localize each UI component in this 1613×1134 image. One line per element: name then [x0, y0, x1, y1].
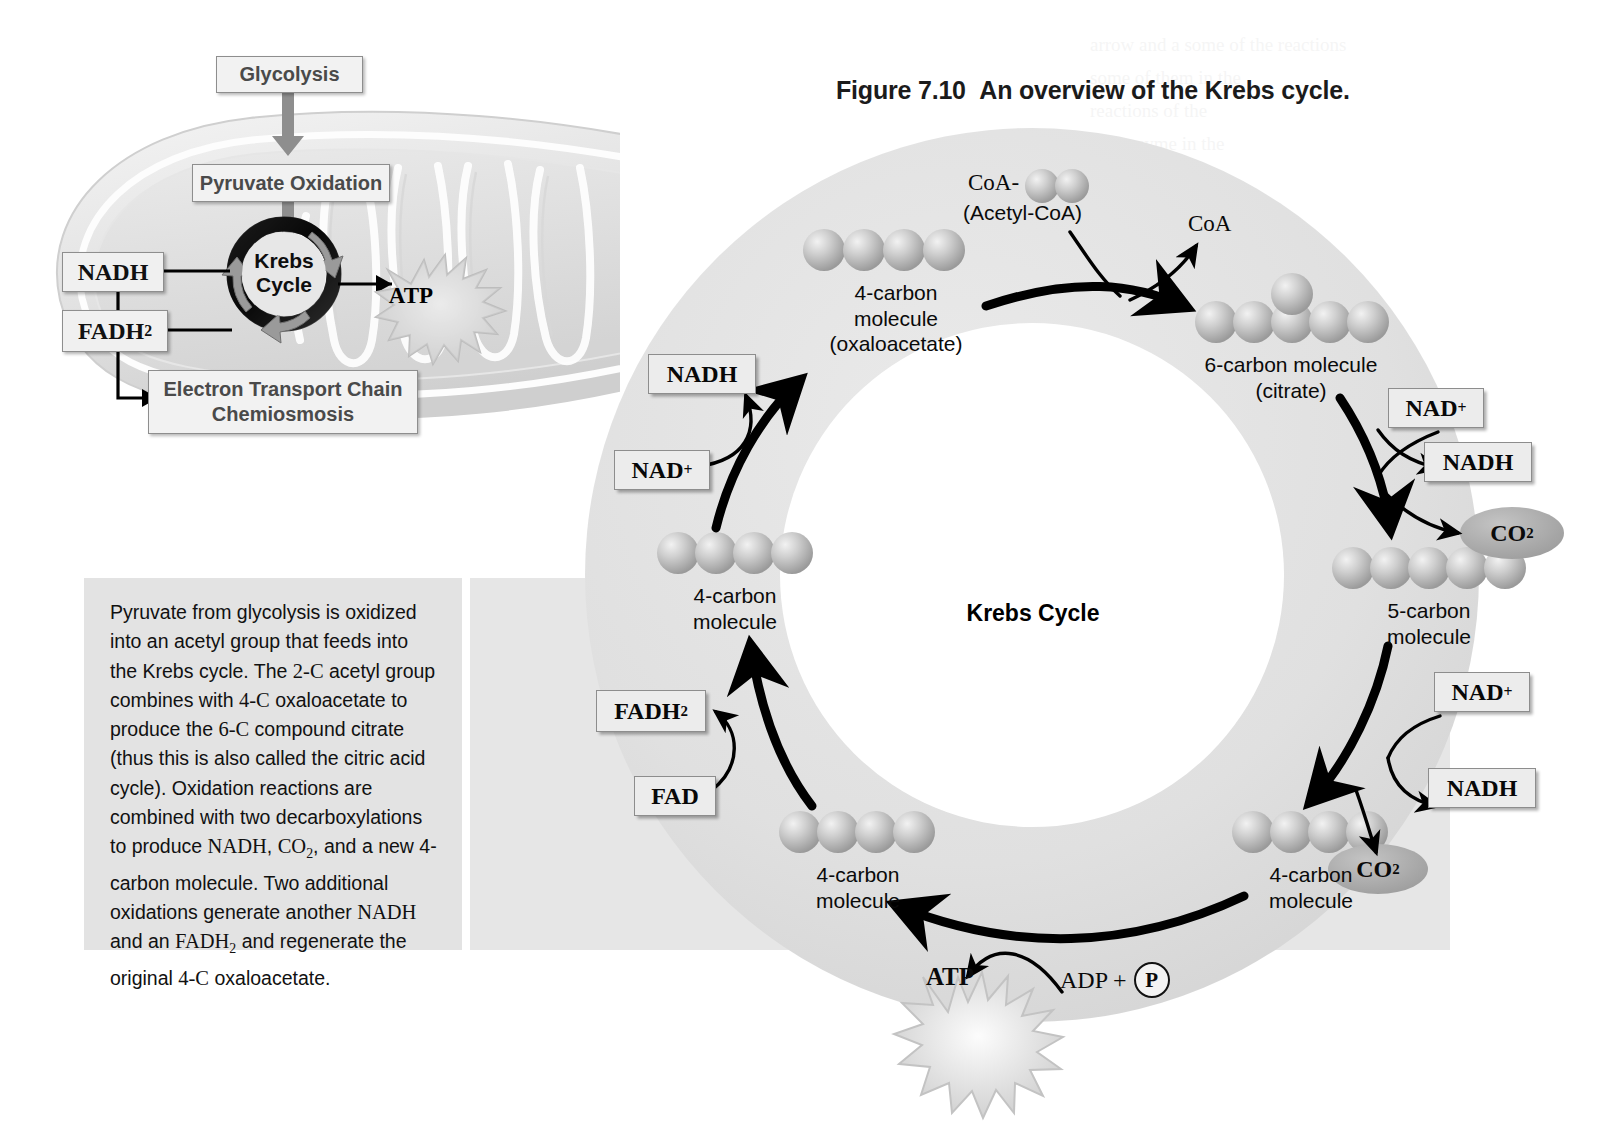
- nadh-box-bottom-right[interactable]: NADH: [1428, 768, 1536, 808]
- nad-plus-label-tl: NAD: [631, 457, 683, 484]
- citrate-label: 6-carbon molecule (citrate): [1188, 352, 1394, 403]
- coa-prefix-label: CoA-: [968, 170, 1019, 196]
- four-carbon-br-line-2: molecule: [1232, 888, 1390, 914]
- nadh-label-tr: NADH: [1443, 449, 1514, 476]
- five-carbon-label: 5-carbon molecule: [1350, 598, 1508, 649]
- co2-main-br: CO: [1356, 856, 1392, 883]
- nadh-label-tl: NADH: [667, 361, 738, 388]
- co2-subscript-br: 2: [1392, 861, 1399, 878]
- five-carbon-line-1: 5-carbon: [1350, 598, 1508, 624]
- co2-main-tr: CO: [1490, 520, 1526, 547]
- nad-plus-box-bottom-right[interactable]: NAD+: [1434, 672, 1530, 712]
- four-carbon-bottom-left-label: 4-carbon molecule: [779, 862, 937, 913]
- coa-output-label: CoA: [1188, 211, 1231, 237]
- oxaloacetate-line-1: 4-carbon: [810, 280, 982, 306]
- oxaloacetate-label: 4-carbon molecule (oxaloacetate): [810, 280, 982, 357]
- four-carbon-left-label: 4-carbon molecule: [656, 583, 814, 634]
- nadh-box-top-right[interactable]: NADH: [1424, 442, 1532, 482]
- co2-label-top-right: CO2: [1460, 518, 1564, 548]
- acetyl-coa-label: (Acetyl-CoA): [963, 200, 1082, 226]
- adp-text: ADP +: [1060, 967, 1127, 994]
- oxaloacetate-line-2: molecule: [810, 306, 982, 332]
- fadh2-label: FADH: [614, 698, 680, 725]
- nad-plus-superscript-tr: +: [1457, 399, 1466, 417]
- phosphate-circle-icon: P: [1134, 962, 1170, 998]
- fadh2-box[interactable]: FADH2: [596, 690, 706, 732]
- citrate-line-1: 6-carbon molecule: [1188, 352, 1394, 378]
- co2-label-bottom-right: CO2: [1328, 854, 1428, 884]
- four-carbon-l-line-1: 4-carbon: [656, 583, 814, 609]
- nad-plus-label-tr: NAD: [1405, 395, 1457, 422]
- nad-plus-box-top-left[interactable]: NAD+: [614, 450, 710, 490]
- atp-label-main: ATP: [905, 963, 995, 991]
- nadh-box-top-left[interactable]: NADH: [648, 354, 756, 394]
- krebs-cycle-center-label: Krebs Cycle: [938, 600, 1128, 627]
- nad-plus-label-br: NAD: [1451, 679, 1503, 706]
- citrate-line-2: (citrate): [1188, 378, 1394, 404]
- adp-phosphate-label: ADP + P: [1060, 962, 1170, 998]
- oxaloacetate-line-3: (oxaloacetate): [810, 331, 982, 357]
- nad-plus-superscript-br: +: [1503, 683, 1512, 701]
- nad-plus-box-top-right[interactable]: NAD+: [1388, 388, 1484, 428]
- nadh-label-br: NADH: [1447, 775, 1518, 802]
- four-carbon-bl-line-1: 4-carbon: [779, 862, 937, 888]
- fad-label: FAD: [651, 783, 699, 810]
- nad-plus-superscript-tl: +: [683, 461, 692, 479]
- four-carbon-l-line-2: molecule: [656, 609, 814, 635]
- krebs-cycle-diagram: CoA- (Acetyl-CoA) CoA 4-carbon molecule …: [0, 0, 1613, 1134]
- co2-subscript-tr: 2: [1526, 525, 1533, 542]
- four-carbon-bl-line-2: molecule: [779, 888, 937, 914]
- fad-box[interactable]: FAD: [634, 776, 716, 816]
- fadh2-subscript: 2: [680, 703, 687, 720]
- five-carbon-line-2: molecule: [1350, 624, 1508, 650]
